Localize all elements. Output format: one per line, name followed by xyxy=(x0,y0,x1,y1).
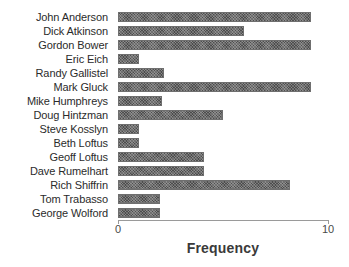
category-label: Mark Gluck xyxy=(0,80,112,94)
bar xyxy=(118,68,164,78)
bar xyxy=(118,152,204,162)
bar-slot xyxy=(118,52,328,66)
bar-slot xyxy=(118,80,328,94)
bar xyxy=(118,180,290,190)
bar xyxy=(118,96,162,106)
bar-series xyxy=(118,10,328,220)
category-label: Beth Loftus xyxy=(0,136,112,150)
category-label: Dick Atkinson xyxy=(0,24,112,38)
x-axis-tick-label-min: 0 xyxy=(115,224,121,235)
bar xyxy=(118,208,160,218)
bar-slot xyxy=(118,94,328,108)
bar-slot xyxy=(118,164,328,178)
category-label: Steve Kosslyn xyxy=(0,122,112,136)
bar xyxy=(118,40,311,50)
bar xyxy=(118,12,311,22)
x-axis-tick-label-max: 10 xyxy=(322,224,334,235)
category-label: Geoff Loftus xyxy=(0,150,112,164)
bar-slot xyxy=(118,206,328,220)
bar-slot xyxy=(118,178,328,192)
category-label: John Anderson xyxy=(0,10,112,24)
bar xyxy=(118,138,139,148)
x-axis-title: Frequency xyxy=(118,240,328,256)
category-label: Gordon Bower xyxy=(0,38,112,52)
category-label: George Wolford xyxy=(0,206,112,220)
bar-slot xyxy=(118,108,328,122)
plot-area xyxy=(118,10,328,220)
bar-slot xyxy=(118,192,328,206)
category-axis-labels: John Anderson Dick Atkinson Gordon Bower… xyxy=(0,10,112,220)
bar-slot xyxy=(118,24,328,38)
bar xyxy=(118,54,139,64)
bar xyxy=(118,82,311,92)
category-label: Mike Humphreys xyxy=(0,94,112,108)
category-label: Tom Trabasso xyxy=(0,192,112,206)
frequency-bar-chart: John Anderson Dick Atkinson Gordon Bower… xyxy=(0,0,349,267)
bar-slot xyxy=(118,38,328,52)
bar xyxy=(118,166,204,176)
category-label: Randy Gallistel xyxy=(0,66,112,80)
x-axis-line xyxy=(118,220,329,221)
bar-slot xyxy=(118,122,328,136)
bar-slot xyxy=(118,150,328,164)
category-label: Doug Hintzman xyxy=(0,108,112,122)
bar-slot xyxy=(118,136,328,150)
category-label: Eric Eich xyxy=(0,52,112,66)
bar-slot xyxy=(118,10,328,24)
category-label: Dave Rumelhart xyxy=(0,164,112,178)
bar xyxy=(118,124,139,134)
category-label: Rich Shiffrin xyxy=(0,178,112,192)
bar xyxy=(118,194,160,204)
bar-slot xyxy=(118,66,328,80)
bar xyxy=(118,110,223,120)
bar xyxy=(118,26,244,36)
